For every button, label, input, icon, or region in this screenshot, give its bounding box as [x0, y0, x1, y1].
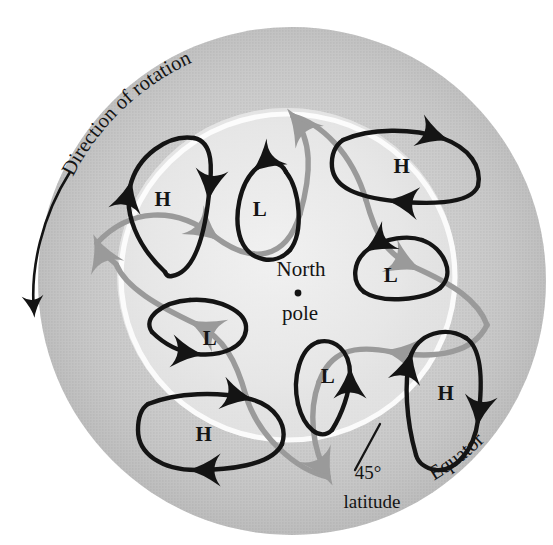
circulation-diagram-figure: H L H L H L H L North pole 45° latitude …	[0, 0, 553, 545]
pole-dot-icon	[295, 290, 302, 297]
latitude-word-label: latitude	[344, 491, 401, 512]
north-label: North	[277, 257, 326, 281]
cell-label-L2: L	[384, 263, 399, 287]
cell-label-H3: H	[438, 381, 455, 405]
pole-label: pole	[282, 301, 318, 325]
cell-label-H1: H	[155, 187, 172, 211]
cell-label-H2: H	[394, 154, 411, 178]
latitude-value-label: 45°	[355, 462, 382, 483]
cell-label-H4: H	[196, 422, 213, 446]
cell-label-L1: L	[253, 197, 268, 221]
cell-label-L3: L	[321, 364, 336, 388]
cell-label-L4: L	[203, 326, 218, 350]
diagram-canvas: H L H L H L H L North pole 45° latitude …	[0, 0, 553, 545]
